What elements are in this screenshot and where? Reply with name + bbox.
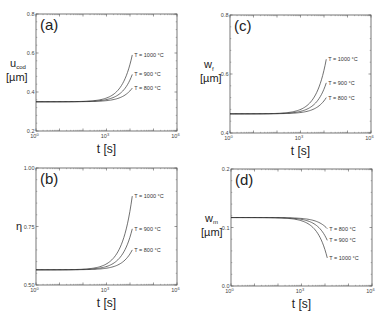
series-label: T = 900 °C xyxy=(328,80,354,86)
panel-a: 0.20.40.60.8100103106t [s]ucod[µm](a)T =… xyxy=(6,11,180,156)
x-axis-label: t [s] xyxy=(291,144,310,158)
panel-d: 0.00.10.2100103106t [s]wm[µm](d)T = 800 … xyxy=(201,166,375,311)
x-tick-label: 106 xyxy=(366,287,375,295)
x-tick-label: 106 xyxy=(171,132,180,140)
x-tick-label: 103 xyxy=(296,287,305,295)
panel-label: (c) xyxy=(234,17,252,34)
series-line xyxy=(231,218,327,241)
series-line xyxy=(230,59,326,114)
y-tick-label: 0.75 xyxy=(24,224,35,230)
x-tick-label: 100 xyxy=(30,286,39,294)
figure: 0.20.40.60.8100103106t [s]ucod[µm](a)T =… xyxy=(0,0,391,322)
x-axis-label: t [s] xyxy=(97,142,116,156)
series-label: T = 800 °C xyxy=(134,247,160,253)
y-axis-unit: [µm] xyxy=(201,226,223,238)
y-axis-label: ucod xyxy=(10,57,26,71)
panel-label: (a) xyxy=(40,16,58,33)
series-label: T = 900 °C xyxy=(329,237,355,243)
series-label: T = 1000 °C xyxy=(328,56,357,62)
y-tick-label: 1.00 xyxy=(24,165,35,171)
series-label: T = 800 °C xyxy=(328,95,354,101)
series-label: T = 1000 °C xyxy=(329,255,358,261)
x-tick-label: 100 xyxy=(225,287,234,295)
x-tick-label: 103 xyxy=(101,286,110,294)
series-line xyxy=(36,74,132,101)
y-axis-unit: [µm] xyxy=(6,71,28,83)
y-axis-label: wf xyxy=(203,58,214,72)
series-line xyxy=(231,218,327,258)
x-tick-label: 103 xyxy=(101,132,110,140)
x-tick-label: 106 xyxy=(171,286,180,294)
y-tick-label: 0.8 xyxy=(27,11,35,17)
x-axis-label: t [s] xyxy=(97,296,116,310)
y-axis-unit: [µm] xyxy=(200,72,222,84)
y-tick-label: 0.6 xyxy=(27,50,35,56)
series-line xyxy=(36,229,132,270)
y-tick-label: 0.4 xyxy=(27,89,35,95)
y-tick-label: 0.6 xyxy=(221,71,229,77)
series-label: T = 800 °C xyxy=(329,226,355,232)
x-tick-label: 106 xyxy=(365,134,374,142)
y-tick-label: 0.8 xyxy=(221,12,229,18)
x-axis-label: t [s] xyxy=(292,297,311,311)
series-label: T = 1000 °C xyxy=(134,193,163,199)
series-line xyxy=(36,196,132,270)
y-axis-label: wm xyxy=(204,212,218,226)
x-tick-label: 100 xyxy=(224,134,233,142)
panel-label: (b) xyxy=(40,170,58,187)
y-axis-label: η xyxy=(16,220,22,232)
x-tick-label: 103 xyxy=(295,134,304,142)
panel-label: (d) xyxy=(235,171,253,188)
series-label: T = 800 °C xyxy=(134,85,160,91)
y-tick-label: 0.2 xyxy=(222,166,230,172)
x-tick-label: 100 xyxy=(30,132,39,140)
series-label: T = 1000 °C xyxy=(134,52,163,58)
panel-b: 0.500.751.00100103106t [s]η(b)T = 1000 °… xyxy=(16,165,180,310)
panel-c: 0.40.60.8100103106t [s]wf[µm](c)T = 1000… xyxy=(200,12,374,158)
series-line xyxy=(230,83,326,114)
series-label: T = 900 °C xyxy=(134,71,160,77)
series-label: T = 900 °C xyxy=(134,226,160,232)
y-tick-label: 0.1 xyxy=(222,225,230,231)
